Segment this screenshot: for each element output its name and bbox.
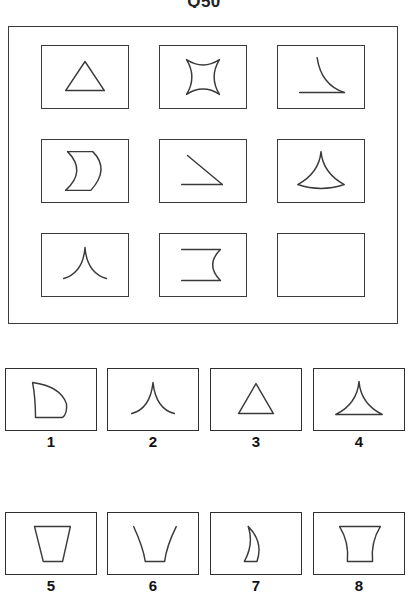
spire-with-curved-base-icon [278,140,364,202]
option-3-box[interactable] [210,368,302,431]
matrix-cell-4[interactable] [41,139,129,203]
option-6-label: 6 [107,577,199,594]
option-2[interactable]: 2 [107,368,199,450]
trapezoid-icon [6,513,96,574]
bracket-concave-right-icon [160,234,246,296]
open-cup-icon [108,513,198,574]
concave-peak-icon [108,369,198,430]
option-2-label: 2 [107,433,199,450]
option-3-label: 3 [210,433,302,450]
matrix-cell-3[interactable] [277,45,365,109]
triangle-icon [42,46,128,108]
option-6-box[interactable] [107,512,199,575]
matrix-cell-5[interactable] [159,139,247,203]
matrix-cell-7[interactable] [41,233,129,297]
empty-cell [278,234,364,296]
goblet-vase-icon [314,513,404,574]
option-6[interactable]: 6 [107,512,199,594]
claw-fin-icon [6,369,96,430]
option-5[interactable]: 5 [5,512,97,594]
option-7-box[interactable] [210,512,302,575]
option-1-box[interactable] [5,368,97,431]
option-5-box[interactable] [5,512,97,575]
triangle-icon [211,369,301,430]
option-4[interactable]: 4 [313,368,405,450]
page-title: Q50 [0,0,408,8]
matrix-cell-8[interactable] [159,233,247,297]
option-1-label: 1 [5,433,97,450]
matrix-cell-9-empty[interactable] [277,233,365,297]
option-8-label: 8 [313,577,405,594]
option-8-box[interactable] [313,512,405,575]
option-4-box[interactable] [313,368,405,431]
option-4-label: 4 [313,433,405,450]
matrix-cell-2[interactable] [159,45,247,109]
four-pointed-concave-star-icon [160,46,246,108]
thin-crescent-icon [211,513,301,574]
option-5-label: 5 [5,577,97,594]
concave-triangle-icon [314,369,404,430]
option-8[interactable]: 8 [313,512,405,594]
matrix-cell-1[interactable] [41,45,129,109]
option-7-label: 7 [210,577,302,594]
option-3[interactable]: 3 [210,368,302,450]
option-2-box[interactable] [107,368,199,431]
option-1[interactable]: 1 [5,368,97,450]
concave-peak-icon [42,234,128,296]
option-7[interactable]: 7 [210,512,302,594]
crescent-bean-icon [42,140,128,202]
concave-curve-with-baseline-icon [278,46,364,108]
matrix-panel [8,26,398,324]
matrix-cell-6[interactable] [277,139,365,203]
angle-straight-lines-icon [160,140,246,202]
